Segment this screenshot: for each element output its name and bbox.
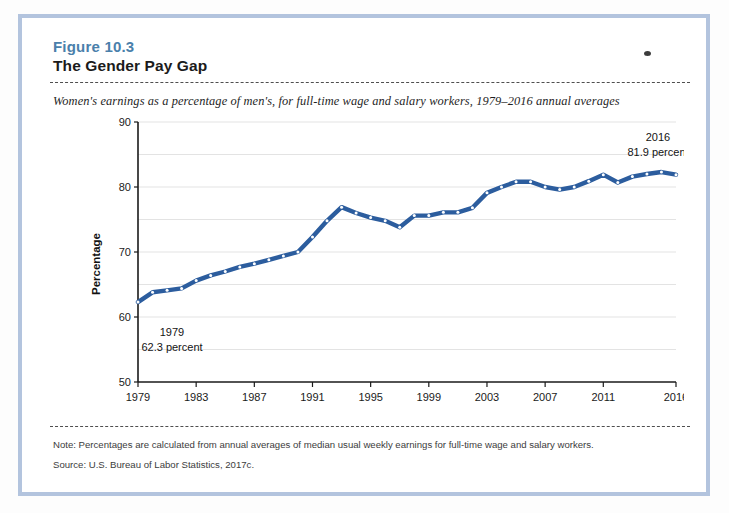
x-tick-label: 2003 (475, 391, 499, 403)
figure-inner: Figure 10.3 The Gender Pay Gap Women's e… (22, 18, 706, 492)
x-tick-label: 1999 (417, 391, 441, 403)
x-tick-label: 1995 (358, 391, 382, 403)
start-callout-value: 62.3 percent (141, 341, 202, 353)
y-tick-label: 60 (119, 311, 131, 323)
divider-top (50, 82, 690, 83)
x-tick-label: 2016 (664, 391, 684, 403)
line-chart: 5060708090 19791983198719911995199920032… (84, 114, 684, 414)
page-title: The Gender Pay Gap (53, 57, 207, 75)
figure-label: Figure 10.3 (53, 38, 134, 55)
chart-svg: 5060708090 19791983198719911995199920032… (84, 114, 684, 414)
figure-page: Figure 10.3 The Gender Pay Gap Women's e… (0, 0, 729, 513)
x-tick-label: 1983 (184, 391, 208, 403)
divider-bottom (50, 426, 690, 427)
data-series-line (138, 172, 676, 302)
figure-subtitle: Women's earnings as a percentage of men'… (53, 94, 620, 109)
y-tick-label: 90 (119, 116, 131, 128)
start-callout-year: 1979 (160, 326, 184, 338)
y-axis-ticks: 5060708090 (119, 116, 138, 388)
figure-source: Source: U.S. Bureau of Labor Statistics,… (53, 459, 254, 470)
x-tick-label: 1987 (242, 391, 266, 403)
chart-callouts: 197962.3 percent201681.9 percent (141, 131, 684, 353)
x-tick-label: 2007 (533, 391, 557, 403)
y-tick-label: 50 (119, 376, 131, 388)
y-axis-label: Percentage (90, 233, 102, 295)
x-tick-label: 2011 (591, 391, 615, 403)
x-tick-label: 1979 (126, 391, 150, 403)
data-point-markers (137, 171, 678, 304)
y-tick-label: 80 (119, 181, 131, 193)
x-tick-label: 1991 (300, 391, 324, 403)
page-speck-artifact (644, 51, 651, 56)
chart-gridlines (138, 122, 676, 350)
y-tick-label: 70 (119, 246, 131, 258)
x-axis-ticks: 1979198319871991199519992003200720112016 (126, 382, 684, 403)
end-callout-year: 2016 (646, 131, 670, 143)
end-callout-value: 81.9 percent (627, 146, 684, 158)
figure-note: Note: Percentages are calculated from an… (53, 439, 594, 450)
figure-frame: Figure 10.3 The Gender Pay Gap Women's e… (18, 14, 710, 496)
